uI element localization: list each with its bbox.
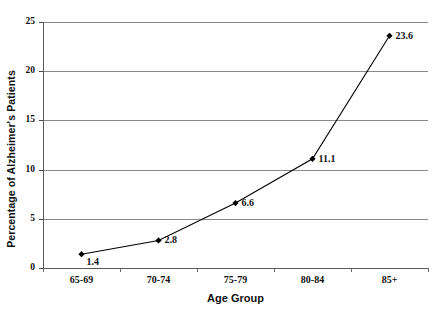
data-point-marker	[309, 156, 315, 162]
data-point-label: 6.6	[242, 198, 255, 208]
data-point-marker	[386, 33, 392, 39]
y-tick-label: 20	[1, 66, 35, 76]
y-tick-label: 15	[1, 115, 35, 125]
x-tick-label: 85+	[382, 274, 398, 285]
x-axis-title: Age Group	[43, 292, 428, 304]
y-tick-label: 0	[1, 263, 35, 273]
series-line	[82, 36, 390, 254]
data-point-marker	[232, 200, 238, 206]
x-tick-label: 80-84	[301, 274, 324, 285]
y-tick-label: 10	[1, 165, 35, 175]
data-point-label: 2.8	[165, 235, 178, 245]
data-point-label: 1.4	[87, 257, 100, 267]
x-axis-line	[43, 268, 428, 269]
chart-figure: Percentage of Alzheimer's Patients 05101…	[0, 0, 448, 318]
y-tick-label: 25	[1, 17, 35, 27]
plot-area: 0510152025 65-6970-7475-7980-8485+ 1.42.…	[43, 22, 428, 268]
x-tick-label: 75-79	[224, 274, 247, 285]
data-point-label: 23.6	[396, 31, 414, 41]
x-tick-label: 65-69	[70, 274, 93, 285]
data-point-marker	[78, 251, 84, 257]
data-point-label: 11.1	[319, 154, 336, 164]
x-tick-label: 70-74	[147, 274, 170, 285]
y-tick-label: 5	[1, 214, 35, 224]
data-point-marker	[155, 237, 161, 243]
line-series	[43, 22, 428, 268]
x-tick-mark	[428, 268, 429, 272]
